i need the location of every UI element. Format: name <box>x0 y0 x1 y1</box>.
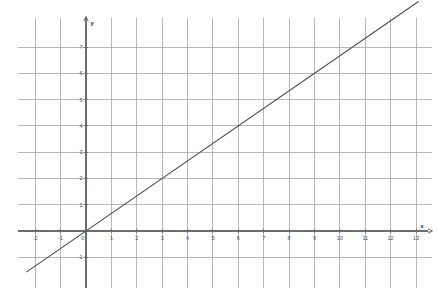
x-tick-label: 1 <box>110 235 113 241</box>
x-tick-label: 13 <box>413 235 419 241</box>
x-tick-label: 0 <box>81 235 84 241</box>
x-tick-label: 8 <box>288 235 291 241</box>
x-tick-labels: -2-1012345678910111213 <box>33 235 419 241</box>
y-tick-label: 1 <box>80 202 83 208</box>
y-tick-label: 2 <box>80 175 83 181</box>
x-tick-label: 9 <box>313 235 316 241</box>
y-axis-label: y <box>91 19 95 26</box>
x-tick-label: 10 <box>337 235 343 241</box>
y-tick-label: 3 <box>80 149 83 155</box>
x-tick-label: 2 <box>135 235 138 241</box>
x-tick-label: -2 <box>33 235 38 241</box>
x-tick-label: 6 <box>237 235 240 241</box>
x-tick-label: 3 <box>161 235 164 241</box>
line-chart-plot: -2-1012345678910111213 -11234567 x y <box>0 0 439 296</box>
y-tick-label: 4 <box>80 123 83 129</box>
y-tick-label: 7 <box>80 44 83 50</box>
x-axis-label: x <box>420 222 424 229</box>
x-tick-label: -1 <box>58 235 63 241</box>
y-tick-label: 6 <box>80 70 83 76</box>
x-tick-label: 7 <box>262 235 265 241</box>
chart-figure: -2-1012345678910111213 -11234567 x y <box>0 0 439 296</box>
x-tick-label: 11 <box>362 235 368 241</box>
y-tick-label: -1 <box>78 254 83 260</box>
vertical-gridlines <box>35 18 416 288</box>
x-tick-label: 12 <box>388 235 394 241</box>
y-tick-label: 5 <box>80 97 83 103</box>
x-tick-label: 5 <box>211 235 214 241</box>
data-series-lines <box>26 1 418 272</box>
data-line-series <box>26 1 418 272</box>
x-tick-label: 4 <box>186 235 189 241</box>
